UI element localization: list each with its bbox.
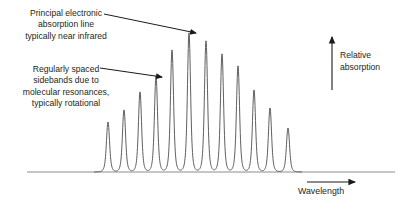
principal-absorption-label: Principal electronic absorption line typ… xyxy=(2,8,130,42)
y-axis-label-line-2: absorption xyxy=(340,62,398,74)
sidebands-label-line-4: typically rotational xyxy=(2,98,130,109)
y-axis-label: Relative absorption xyxy=(340,50,398,73)
x-axis-label-line-1: Wavelength xyxy=(298,186,378,197)
x-axis-label: Wavelength xyxy=(298,186,378,197)
principal-label-line-2: absorption line xyxy=(2,19,130,30)
sidebands-label: Regularly spaced sidebands due to molecu… xyxy=(2,64,130,110)
sidebands-label-line-3: molecular resonances, xyxy=(2,87,130,98)
principal-label-line-1: Principal electronic xyxy=(2,8,130,19)
principal-label-line-3: typically near infrared xyxy=(2,31,130,42)
absorption-spectrum-figure: Principal electronic absorption line typ… xyxy=(0,0,402,210)
sidebands-label-line-1: Regularly spaced xyxy=(2,64,130,75)
y-axis-label-line-1: Relative xyxy=(340,50,398,62)
sidebands-label-line-2: sidebands due to xyxy=(2,75,130,86)
